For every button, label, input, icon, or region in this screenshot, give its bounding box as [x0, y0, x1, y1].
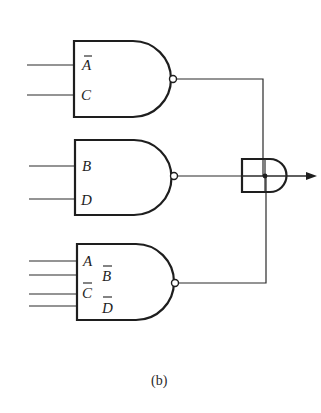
- nand-gate-1-body: [74, 41, 171, 117]
- input-label-c: C: [81, 87, 92, 103]
- wire-gate1-to-combiner: [177, 79, 263, 176]
- figure-caption: (b): [151, 373, 168, 389]
- input-label-b: B: [82, 158, 91, 174]
- nand-gate-3: A B C D: [29, 244, 179, 320]
- output-arrow-icon: [306, 172, 317, 180]
- input-label-d: D: [80, 192, 92, 208]
- input-label-a: A: [82, 253, 93, 269]
- and-gate-combiner: [242, 159, 317, 192]
- inversion-bubble-1: [170, 76, 177, 83]
- nand-gate-1: A C: [27, 41, 177, 117]
- inversion-bubble-3: [172, 280, 179, 287]
- input-label-d: D: [101, 300, 113, 316]
- input-label-b: B: [102, 268, 111, 284]
- input-label-c: C: [82, 285, 93, 301]
- nand-gate-2: B D: [29, 140, 178, 215]
- inversion-bubble-2: [171, 173, 178, 180]
- junction-dot: [263, 174, 268, 179]
- input-label-a: A: [81, 57, 92, 73]
- logic-circuit-diagram: A C B D A B C D (b: [0, 0, 321, 413]
